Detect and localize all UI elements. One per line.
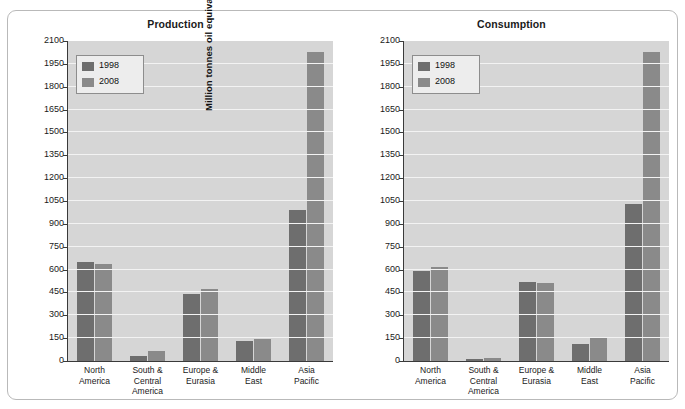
- y-tick-label: 1500: [364, 126, 400, 136]
- gridline: [68, 337, 333, 338]
- y-tick-label: 600: [364, 264, 400, 274]
- y-axis-label-consumption: Million tonnes oil equivalent: [203, 0, 217, 196]
- y-tick-label: 450: [28, 286, 64, 296]
- y-tick-mark: [63, 155, 67, 156]
- y-tick-label: 0: [364, 355, 400, 365]
- gridline: [68, 269, 333, 270]
- y-tick-mark: [63, 87, 67, 88]
- y-tick-mark: [399, 178, 403, 179]
- gridline: [68, 291, 333, 292]
- y-tick-mark: [399, 270, 403, 271]
- gridline: [404, 109, 669, 110]
- gridline: [404, 314, 669, 315]
- x-axis-label: Middle East: [563, 365, 616, 386]
- gridline: [68, 109, 333, 110]
- gridline: [404, 291, 669, 292]
- gridline: [404, 131, 669, 132]
- y-tick-label: 1050: [28, 195, 64, 205]
- legend-swatch-1998: [418, 62, 430, 71]
- gridline: [404, 269, 669, 270]
- gridline: [68, 314, 333, 315]
- y-tick-label: 1050: [364, 195, 400, 205]
- y-tick-label: 750: [364, 241, 400, 251]
- y-tick-label: 600: [28, 264, 64, 274]
- y-tick-mark: [399, 361, 403, 362]
- legend-swatch-2008: [418, 78, 430, 87]
- x-axis-label: South & Central America: [457, 365, 510, 397]
- y-tick-label: 150: [364, 332, 400, 342]
- axis-line-bottom-consumption: [403, 361, 669, 362]
- y-tick-mark: [399, 155, 403, 156]
- panel-title-consumption: Consumption: [344, 18, 679, 30]
- bar-1998: [236, 341, 253, 361]
- y-tick-mark: [63, 338, 67, 339]
- bar-group: [289, 41, 324, 361]
- gridline: [404, 177, 669, 178]
- bar-2008: [201, 289, 218, 361]
- y-tick-mark: [63, 315, 67, 316]
- y-tick-mark: [63, 361, 67, 362]
- y-tick-mark: [399, 292, 403, 293]
- y-tick-label: 750: [28, 241, 64, 251]
- y-tick-mark: [63, 247, 67, 248]
- gridline: [68, 246, 333, 247]
- top-cut-caption: [24, 0, 664, 7]
- y-tick-label: 1650: [364, 104, 400, 114]
- gridline: [68, 223, 333, 224]
- legend-label-1998: 1998: [435, 60, 455, 70]
- x-axis-label: Middle East: [227, 365, 280, 386]
- gridline: [68, 131, 333, 132]
- legend-swatch-1998: [82, 62, 94, 71]
- bar-2008: [95, 264, 112, 361]
- y-tick-mark: [399, 224, 403, 225]
- y-tick-mark: [63, 110, 67, 111]
- bar-group: [572, 41, 607, 361]
- bar-1998: [183, 294, 200, 361]
- y-tick-mark: [399, 201, 403, 202]
- y-tick-mark: [63, 178, 67, 179]
- bar-2008: [254, 339, 271, 361]
- y-tick-mark: [399, 247, 403, 248]
- bar-group: [519, 41, 554, 361]
- panels: Production Million tonnes oil equivalent…: [8, 11, 679, 401]
- y-tick-label: 1200: [364, 172, 400, 182]
- gridline: [68, 177, 333, 178]
- y-tick-label: 150: [28, 332, 64, 342]
- y-axis-ticks-production: 0150300450600750900105012001350150016501…: [20, 41, 64, 362]
- y-tick-label: 900: [364, 218, 400, 228]
- y-tick-label: 1650: [28, 104, 64, 114]
- x-axis-label: Europe & Eurasia: [510, 365, 563, 386]
- y-tick-label: 1950: [28, 58, 64, 68]
- y-tick-label: 1800: [28, 81, 64, 91]
- y-tick-mark: [399, 41, 403, 42]
- bar-1998: [519, 282, 536, 361]
- legend-label-1998: 1998: [99, 60, 119, 70]
- y-tick-mark: [399, 64, 403, 65]
- panel-title-production: Production: [8, 18, 343, 30]
- bar-group: [236, 41, 271, 361]
- gridline: [68, 200, 333, 201]
- bar-1998: [289, 210, 306, 361]
- legend-consumption: 1998 2008: [412, 55, 480, 94]
- y-tick-mark: [63, 201, 67, 202]
- bar-1998: [572, 344, 589, 361]
- x-axis-label: North America: [68, 365, 121, 386]
- y-tick-mark: [63, 41, 67, 42]
- figure-page: Production Million tonnes oil equivalent…: [0, 0, 685, 409]
- y-tick-label: 1200: [28, 172, 64, 182]
- bar-2008: [590, 337, 607, 361]
- y-tick-mark: [399, 110, 403, 111]
- x-axis-label: Europe & Eurasia: [174, 365, 227, 386]
- y-tick-mark: [63, 132, 67, 133]
- axis-line-left-consumption: [403, 41, 404, 362]
- x-axis-label: Asia Pacific: [616, 365, 669, 386]
- y-tick-label: 0: [28, 355, 64, 365]
- axis-line-left-production: [67, 41, 68, 362]
- y-tick-mark: [63, 270, 67, 271]
- x-axis-label: South & Central America: [121, 365, 174, 397]
- y-tick-label: 1800: [364, 81, 400, 91]
- gridline: [404, 223, 669, 224]
- y-tick-mark: [399, 132, 403, 133]
- bar-2008: [537, 283, 554, 361]
- x-axis-label: North America: [404, 365, 457, 386]
